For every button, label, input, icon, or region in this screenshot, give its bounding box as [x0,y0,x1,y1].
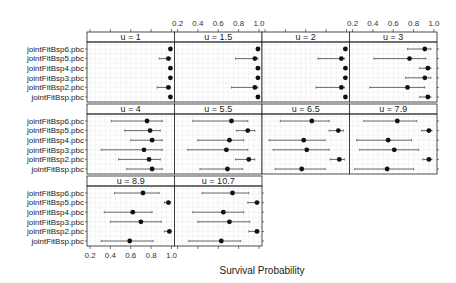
panel-strip-label: u = 4 [121,104,141,114]
estimate-point [422,47,427,52]
panels: u = 1u = 1.5u = 2u = 3u = 4u = 5.5u = 6.… [87,32,437,246]
x-tick-label: 0.8 [146,251,158,260]
estimate-point [139,219,144,224]
x-tick-label: 1.0 [428,19,440,28]
x-tick-label: 0.6 [213,19,225,28]
estimate-point [219,239,224,244]
panel: u = 2 [262,32,350,102]
panel-strip-label: u = 1.5 [204,32,232,42]
row-label: jointFitBsp2.pbc [26,83,84,92]
estimate-point [339,56,344,61]
estimate-point [304,147,309,152]
panel-strip-label: u = 8.9 [117,176,145,186]
row-label: jointFitBsp4.pbc [26,136,84,145]
estimate-point [145,119,150,124]
estimate-point [130,210,135,215]
estimate-point [227,138,232,143]
x-tick-label: 0.8 [233,19,245,28]
estimate-point [405,85,410,90]
x-tick-label: 0.2 [172,19,184,28]
estimate-point [343,47,348,52]
estimate-point [426,128,431,133]
row-label: jointFitBsp5.pbc [26,126,84,135]
row-label: jointFitBsp.pbc [31,165,84,174]
estimate-point [142,147,147,152]
estimate-point [221,210,226,215]
estimate-point [230,191,235,196]
estimate-point [343,95,348,100]
estimate-point [225,167,230,172]
estimate-point [150,138,155,143]
row-labels: jointFitBsp6.pbcjointFitBsp5.pbcjointFit… [26,45,87,246]
panel-strip-label: u = 5.5 [204,104,232,114]
panel: u = 7.9 [350,104,438,174]
x-tick-label: 1.0 [253,19,265,28]
row-label: jointFitBsp5.pbc [26,198,84,207]
x-tick-label: 0.4 [367,19,379,28]
estimate-point [395,119,400,124]
estimate-point [229,119,234,124]
x-axis-title: Survival Probability [219,265,304,276]
survival-probability-chart: u = 1u = 1.5u = 2u = 3u = 4u = 5.5u = 6.… [0,0,456,283]
estimate-point [166,56,171,61]
x-tick-label: 1.0 [166,251,178,260]
panel: u = 1 [87,32,175,102]
x-tick-label: 0.4 [192,19,204,28]
estimate-point [255,229,260,234]
estimate-point [227,219,232,224]
estimate-point [255,200,260,205]
x-tick-label: 0.2 [84,251,96,260]
panel-strip-label: u = 7.9 [379,104,407,114]
row-label: jointFitBsp.pbc [31,237,84,246]
estimate-point [256,75,261,80]
estimate-point [309,119,314,124]
row-label: jointFitBsp6.pbc [26,117,84,126]
panel: u = 5.5 [175,104,263,174]
estimate-point [148,128,153,133]
estimate-point [256,66,261,71]
estimate-point [167,229,172,234]
x-tick-label: 0.6 [388,19,400,28]
panel: u = 10.7 [175,176,263,246]
panel-strip-label: u = 1 [121,32,141,42]
estimate-point [127,239,132,244]
estimate-point [299,167,304,172]
estimate-point [252,85,257,90]
estimate-point [252,56,257,61]
row-label: jointFitBsp3.pbc [26,146,84,155]
panel: u = 6.5 [262,104,350,174]
estimate-point [422,75,427,80]
estimate-point [386,138,391,143]
panel-strip-label: u = 6.5 [292,104,320,114]
x-tick-label: 0.6 [125,251,137,260]
panel-strip-label: u = 10.7 [202,176,235,186]
panel: u = 3 [350,32,438,102]
estimate-point [407,56,412,61]
row-label: jointFitBsp4.pbc [26,208,84,217]
estimate-point [392,147,397,152]
estimate-point [256,95,261,100]
panel-strip-label: u = 3 [383,32,403,42]
estimate-point [168,75,173,80]
row-label: jointFitBsp5.pbc [26,54,84,63]
estimate-point [168,66,173,71]
row-label: jointFitBsp6.pbc [26,45,84,54]
panel-strip-label: u = 2 [296,32,316,42]
estimate-point [168,47,173,52]
estimate-point [166,200,171,205]
estimate-point [168,95,173,100]
estimate-point [337,157,342,162]
estimate-point [425,66,430,71]
row-label: jointFitBsp6.pbc [26,189,84,198]
x-tick-label: 0.4 [105,251,117,260]
estimate-point [339,85,344,90]
row-label: jointFitBsp4.pbc [26,64,84,73]
estimate-point [301,138,306,143]
estimate-point [425,95,430,100]
estimate-point [343,75,348,80]
x-tick-label: 0.8 [408,19,420,28]
row-label: jointFitBsp3.pbc [26,74,84,83]
panel: u = 4 [87,104,175,174]
estimate-point [141,191,146,196]
estimate-point [150,167,155,172]
